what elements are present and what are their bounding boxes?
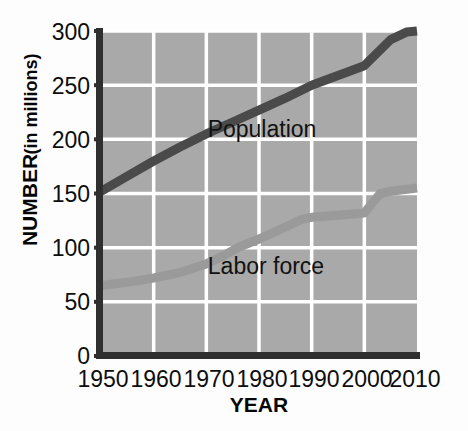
y-axis-tick-mark [94, 354, 103, 358]
y-axis-tick-mark [94, 246, 103, 250]
x-tick-label-1950: 1950 [77, 366, 128, 392]
line-chart: 300 250 200 150 100 50 0 1950 1960 1970 … [0, 0, 468, 431]
y-axis-title-group: NUMBER (in millions) [18, 53, 41, 246]
x-tick-label-1960: 1960 [130, 366, 181, 392]
x-tick-label-1970: 1970 [183, 366, 234, 392]
x-tick-label-1990: 1990 [288, 366, 339, 392]
y-tick-label-100: 100 [52, 235, 90, 261]
x-tick-label-2000: 2000 [341, 366, 392, 392]
y-axis-tick-mark [94, 83, 103, 87]
y-axis-tick-mark [94, 29, 103, 33]
x-axis-spine [96, 352, 420, 359]
y-tick-label-200: 200 [52, 127, 90, 153]
y-tick-label-50: 50 [64, 289, 90, 315]
population-series-label: Population [208, 116, 317, 142]
x-axis-title: YEAR [230, 393, 288, 416]
y-tick-label-150: 150 [52, 181, 90, 207]
y-tick-label-250: 250 [52, 73, 90, 99]
chart-container: 300 250 200 150 100 50 0 1950 1960 1970 … [0, 0, 468, 431]
y-axis-title-main: NUMBER [18, 154, 41, 246]
x-tick-label-2010: 2010 [389, 366, 440, 392]
labor-force-series-label: Labor force [208, 253, 324, 279]
y-axis-tick-mark [94, 137, 103, 141]
y-axis-title-units: (in millions) [21, 53, 41, 154]
x-tick-label-1980: 1980 [236, 366, 287, 392]
y-axis-tick-mark [94, 300, 103, 304]
y-axis-tick-mark [94, 192, 103, 196]
y-tick-label-300: 300 [52, 19, 90, 45]
